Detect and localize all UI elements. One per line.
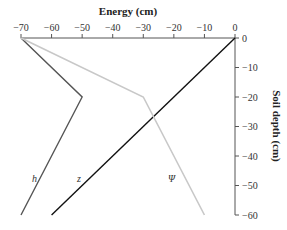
- svg-text:−40: −40: [242, 151, 258, 162]
- svg-text:−70: −70: [13, 22, 29, 33]
- series-line-z: [52, 38, 235, 215]
- svg-text:−30: −30: [242, 121, 258, 132]
- series-lines: [21, 38, 235, 215]
- x-axis-ticks: −70−60−50−40−30−20−100: [13, 22, 237, 38]
- svg-text:−50: −50: [242, 180, 258, 191]
- svg-text:−20: −20: [242, 92, 258, 103]
- svg-text:−50: −50: [74, 22, 90, 33]
- svg-text:−40: −40: [105, 22, 121, 33]
- series-label-psi: Ψ: [168, 173, 176, 184]
- svg-text:−60: −60: [44, 22, 60, 33]
- y-axis-ticks: 0−10−20−30−40−50−60: [235, 33, 258, 221]
- svg-text:−10: −10: [242, 62, 258, 73]
- svg-text:0: 0: [233, 22, 238, 33]
- svg-text:−30: −30: [135, 22, 151, 33]
- x-axis-title: Energy (cm): [99, 5, 158, 18]
- series-label-h: h: [32, 173, 37, 184]
- svg-text:0: 0: [242, 33, 247, 44]
- svg-text:−10: −10: [197, 22, 213, 33]
- svg-text:−60: −60: [242, 210, 258, 221]
- chart: Energy (cm) −70−60−50−40−30−20−100 0−10−…: [0, 0, 287, 230]
- svg-text:−20: −20: [166, 22, 182, 33]
- series-line-h: [21, 38, 82, 215]
- y-axis-title: Soil depth (cm): [270, 90, 283, 162]
- series-label-z: z: [76, 173, 81, 184]
